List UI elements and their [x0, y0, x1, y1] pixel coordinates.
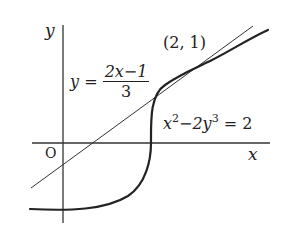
- tangent-line-denominator: 3: [103, 82, 150, 100]
- curve-eq-x: x: [163, 114, 172, 133]
- tangent-line-lhs: y =: [70, 72, 98, 91]
- diagram-figure: y x O y = 2x−1 3 (2, 1) x2−2y3 = 2: [0, 0, 290, 232]
- tangent-line-numerator: 2x−1: [103, 64, 150, 82]
- curve-eq-x-exponent: 2: [172, 112, 179, 125]
- y-axis-label: y: [45, 22, 55, 39]
- tangent-line: [31, 26, 253, 188]
- origin-label: O: [45, 146, 56, 160]
- tangent-line-equation: y = 2x−1 3: [70, 64, 149, 100]
- curve-equation: x2−2y3 = 2: [163, 116, 252, 132]
- tangent-line-fraction: 2x−1 3: [103, 64, 150, 100]
- curve-eq-y-exponent: 3: [212, 112, 219, 125]
- curve-eq-mid: −2y: [179, 114, 212, 133]
- x-axis-label: x: [248, 146, 258, 163]
- curve-eq-rhs: = 2: [219, 114, 253, 133]
- tangent-point-label: (2, 1): [163, 35, 206, 51]
